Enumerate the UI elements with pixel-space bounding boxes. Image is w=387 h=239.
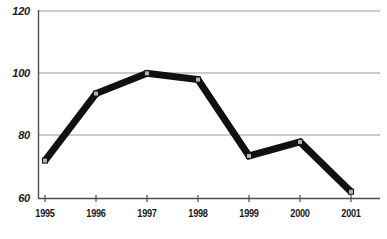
data-point-2000: [298, 139, 303, 144]
x-axis-tick-label-1999: 1999: [229, 208, 269, 219]
data-point-1995: [43, 158, 48, 163]
data-series-line: [45, 73, 351, 191]
data-point-2001: [349, 189, 354, 194]
data-point-1998: [196, 77, 201, 82]
data-point-1996: [94, 91, 99, 96]
x-axis-tick-label-1997: 1997: [127, 208, 167, 219]
plot-area: [0, 0, 387, 239]
x-axis-tick-label-2000: 2000: [280, 208, 320, 219]
x-axis-tick-label-1996: 1996: [76, 208, 116, 219]
data-point-markers: [43, 71, 354, 194]
x-axis-tick-label-1998: 1998: [178, 208, 218, 219]
data-point-1997: [145, 71, 150, 76]
x-axis-tick-label-2001: 2001: [331, 208, 371, 219]
x-axis-tick-label-1995: 1995: [25, 208, 65, 219]
data-point-1999: [247, 153, 252, 158]
gridlines: [38, 11, 380, 135]
line-chart: 120 100 80 60 1995 1996 1997 199: [0, 0, 387, 239]
